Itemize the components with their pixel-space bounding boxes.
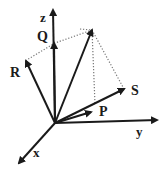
dotted-projection-line xyxy=(25,43,55,61)
vector-diagram: zyxQRSP xyxy=(0,0,162,173)
z-axis-label: z xyxy=(40,10,46,25)
dotted-projection-line xyxy=(92,30,124,89)
vector-q-label: Q xyxy=(37,29,48,44)
y-axis-label: y xyxy=(136,124,143,139)
dotted-projection-line xyxy=(55,30,92,43)
vector-r-label: R xyxy=(10,65,21,80)
vector-r xyxy=(26,61,55,123)
dotted-projection-line xyxy=(92,30,95,104)
x-axis-label: x xyxy=(33,145,40,160)
dotted-projection-line xyxy=(80,29,92,30)
vector-resultant xyxy=(55,30,92,123)
y-axis xyxy=(55,120,157,123)
vector-q xyxy=(54,43,55,123)
vector-p-label: P xyxy=(99,104,108,119)
vector-s xyxy=(55,89,124,123)
labels: zyxQRSP xyxy=(10,10,143,160)
vector-s-label: S xyxy=(131,83,139,98)
